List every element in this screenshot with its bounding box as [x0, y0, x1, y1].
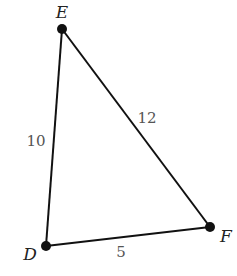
- side-EF-length: 12: [137, 109, 156, 127]
- vertex-D-point: [41, 241, 51, 251]
- vertex-E-point: [57, 24, 67, 34]
- side-DF: [46, 227, 210, 246]
- vertex-E-label: E: [55, 2, 69, 22]
- side-EF: [62, 29, 210, 227]
- vertex-F-label: F: [219, 226, 233, 246]
- side-DF-length: 5: [116, 243, 126, 261]
- side-ED-length: 10: [26, 132, 45, 150]
- vertex-D-label: D: [22, 244, 37, 264]
- side-ED: [46, 29, 62, 246]
- vertex-F-point: [205, 222, 215, 232]
- triangle-diagram: E D F 10 12 5: [0, 0, 237, 276]
